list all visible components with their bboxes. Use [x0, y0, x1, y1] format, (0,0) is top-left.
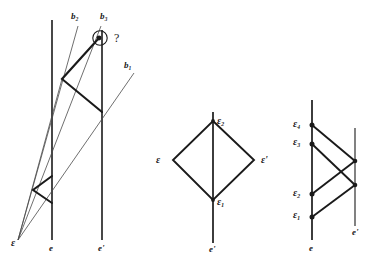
right-point-epsilon-3: [310, 142, 315, 147]
left-label-b1: b₁: [124, 61, 132, 70]
right-label-epsilon-3: ε₃: [293, 137, 301, 147]
middle-label-epsilon: ε: [156, 155, 160, 165]
right-point-eprime-upper: [353, 159, 358, 164]
right-point-epsilon-2: [310, 192, 315, 197]
left-ray-aux: [18, 79, 62, 240]
figure-root: b₂ b₃ b₁ ? ε e e' ε₂ ε₁ ε ε' e' ε₄ ε₃ ε₂…: [0, 0, 373, 263]
right-label-line-e: e: [309, 244, 313, 253]
middle-label-epsilon-2: ε₂: [217, 116, 225, 126]
middle-panel-group: [173, 112, 254, 243]
middle-point-epsilon-2: [211, 119, 215, 123]
right-point-eprime-lower: [353, 183, 358, 188]
left-label-b3: b₃: [100, 12, 108, 21]
right-label-epsilon-1: ε₁: [293, 210, 301, 220]
middle-label-line-e-prime: e': [209, 245, 216, 254]
left-zigzag-lower: [33, 176, 52, 203]
right-segment-1: [312, 125, 355, 161]
diagram-canvas: [0, 0, 373, 263]
middle-point-epsilon-1: [211, 198, 215, 202]
left-panel-group: [18, 20, 134, 240]
left-label-b2: b₂: [71, 12, 79, 21]
left-label-line-e-prime: e': [98, 244, 105, 253]
left-label-epsilon: ε: [11, 238, 15, 248]
right-label-epsilon-4: ε₄: [293, 119, 301, 129]
right-panel-group: [310, 100, 358, 240]
right-segment-3: [312, 144, 355, 185]
middle-label-epsilon-1: ε₁: [217, 197, 225, 207]
right-point-epsilon-4: [310, 123, 315, 128]
left-ray-b1: [18, 73, 134, 240]
right-label-epsilon-2: ε₂: [293, 188, 301, 198]
left-label-question: ?: [114, 32, 119, 44]
middle-label-epsilon-prime: ε': [261, 155, 268, 165]
right-point-epsilon-1: [310, 215, 315, 220]
left-label-line-e: e: [49, 244, 53, 253]
left-marked-point: [97, 36, 102, 41]
left-ray-b3: [18, 26, 101, 240]
right-label-line-e-prime: e': [352, 228, 359, 237]
